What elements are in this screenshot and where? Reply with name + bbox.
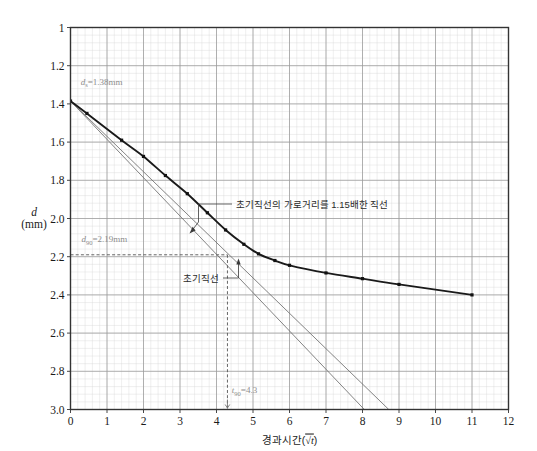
x-tick-label: 3 (177, 415, 183, 427)
ds-label: ds=1.38mm (81, 77, 123, 89)
x-tick-label: 7 (323, 415, 329, 427)
data-point (142, 155, 145, 158)
x-tick-label: 8 (360, 415, 366, 427)
x-tick-label: 12 (503, 415, 515, 427)
y-axis-symbol: d (31, 206, 37, 218)
data-point (164, 174, 167, 177)
data-point (206, 211, 209, 214)
consolidation-sqrt-t-chart: 012345678910111211.21.41.61.82.02.22.42.… (0, 0, 537, 451)
x-tick-label: 11 (466, 415, 477, 427)
x-tick-label: 9 (396, 415, 402, 427)
x-tick-label: 10 (430, 415, 442, 427)
x-tick-label: 2 (141, 415, 147, 427)
x-tick-label: 1 (104, 415, 110, 427)
chart-figure: 012345678910111211.21.41.61.82.02.22.42.… (0, 0, 537, 451)
data-point (257, 252, 260, 255)
data-point (242, 243, 245, 246)
data-point (186, 192, 189, 195)
callout-initial-text: 초기직선 (183, 273, 219, 284)
x-axis-caption: 경과시간(√t) (262, 434, 318, 446)
y-tick-label: 1.2 (50, 60, 65, 72)
y-tick-label: 2.6 (50, 327, 65, 339)
x-tick-label: 4 (214, 415, 220, 427)
data-point (361, 277, 364, 280)
y-tick-label: 2.4 (50, 289, 65, 301)
y-tick-label: 1.4 (50, 98, 65, 110)
data-point (120, 139, 123, 142)
y-axis-unit: (mm) (21, 218, 47, 231)
y-tick-label: 2.2 (50, 251, 65, 263)
data-point (273, 259, 276, 262)
data-point (397, 283, 400, 286)
y-tick-label: 1.8 (50, 174, 65, 186)
x-tick-label: 6 (287, 415, 293, 427)
data-point (85, 112, 88, 115)
y-tick-label: 2.8 (50, 365, 65, 377)
x-tick-label: 5 (250, 415, 256, 427)
y-tick-label: 1.6 (50, 136, 65, 148)
y-tick-label: 2.0 (50, 213, 65, 225)
data-point (288, 264, 291, 267)
x-tick-label: 0 (68, 415, 74, 427)
y-tick-label: 3.0 (50, 404, 65, 416)
data-point (470, 293, 473, 296)
chart-background (0, 0, 537, 451)
callout-115-text: 초기직선의 가로거리를 1.15배한 직선 (236, 199, 388, 210)
data-point (324, 271, 327, 274)
y-tick-label: 1 (59, 22, 65, 34)
data-point (224, 228, 227, 231)
